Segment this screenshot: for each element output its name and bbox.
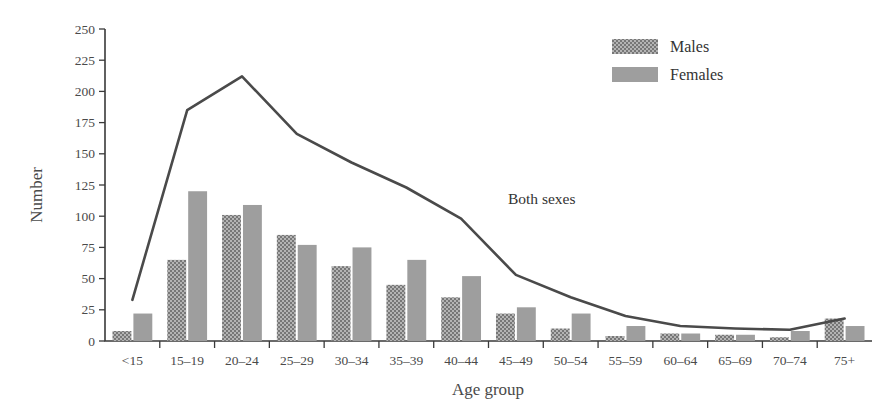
- bar-group: [167, 191, 207, 341]
- bar-males: [496, 314, 515, 341]
- bar-females: [188, 191, 207, 341]
- bar-females: [626, 326, 645, 341]
- legend-item: Males: [612, 38, 709, 55]
- x-tick-label: 30–34: [335, 353, 369, 368]
- bar-group: [770, 331, 810, 341]
- y-tick-label: 250: [75, 22, 96, 37]
- chart-container: 0255075100125150175200225250<1515–1920–2…: [0, 0, 880, 416]
- bar-males: [386, 285, 405, 341]
- bar-males: [551, 329, 570, 341]
- bar-males: [441, 297, 460, 341]
- y-axis-title: Number: [27, 167, 46, 223]
- bar-males: [606, 336, 625, 341]
- bar-females: [846, 326, 865, 341]
- chart-legend: MalesFemales: [612, 38, 723, 83]
- bar-group: [222, 205, 262, 341]
- x-tick-label: 65–69: [718, 353, 752, 368]
- bar-females: [298, 245, 317, 341]
- bar-females: [243, 205, 262, 341]
- legend-label: Males: [670, 38, 709, 55]
- bar-females: [736, 335, 755, 341]
- y-tick-label: 200: [75, 84, 96, 99]
- annotations-layer: Both sexes: [508, 190, 576, 207]
- x-tick-label: 35–39: [389, 353, 423, 368]
- bar-males: [660, 334, 679, 341]
- bar-females: [681, 334, 700, 341]
- bar-males: [167, 260, 186, 341]
- bar-group: [551, 314, 591, 341]
- bar-group: [386, 260, 426, 341]
- axis-lines: [105, 29, 872, 341]
- bar-males: [770, 337, 789, 341]
- y-tick-label: 0: [88, 334, 95, 349]
- bar-group: [112, 314, 152, 341]
- y-tick-label: 150: [75, 146, 96, 161]
- bar-females: [572, 314, 591, 341]
- x-tick-label: 40–44: [444, 353, 478, 368]
- both-sexes-annotation: Both sexes: [508, 190, 576, 207]
- bar-males: [715, 335, 734, 341]
- bar-females: [462, 276, 481, 341]
- bar-males: [222, 215, 241, 341]
- y-tick-label: 75: [82, 240, 96, 255]
- bar-females: [791, 331, 810, 341]
- y-tick-label: 50: [82, 271, 96, 286]
- x-tick-label: 75+: [834, 353, 855, 368]
- bar-group: [606, 326, 646, 341]
- bar-females: [133, 314, 152, 341]
- legend-item: Females: [612, 66, 723, 83]
- x-tick-label: 60–64: [663, 353, 697, 368]
- bar-group: [715, 335, 755, 341]
- bar-group: [441, 276, 481, 341]
- x-tick-label: 55–59: [609, 353, 643, 368]
- x-axis-title: Age group: [452, 380, 524, 399]
- females-swatch: [612, 67, 658, 82]
- y-tick-label: 175: [75, 115, 96, 130]
- y-tick-label: 125: [75, 178, 96, 193]
- y-tick-label: 100: [75, 209, 96, 224]
- legend-label: Females: [670, 66, 723, 83]
- x-tick-label: 15–19: [170, 353, 204, 368]
- bar-males: [112, 331, 131, 341]
- bar-females: [407, 260, 426, 341]
- bar-males: [332, 266, 351, 341]
- x-tick-label: <15: [122, 353, 143, 368]
- x-tick-label: 20–24: [225, 353, 259, 368]
- bar-group: [332, 247, 372, 341]
- x-tick-label: 50–54: [554, 353, 588, 368]
- males-swatch: [612, 39, 658, 54]
- y-tick-label: 225: [75, 53, 96, 68]
- bar-group: [660, 334, 700, 341]
- x-tick-label: 45–49: [499, 353, 533, 368]
- bar-group: [277, 235, 317, 341]
- bar-females: [517, 307, 536, 341]
- bar-females: [353, 247, 372, 341]
- y-tick-label: 25: [82, 302, 96, 317]
- bar-group: [496, 307, 536, 341]
- bars-layer: [112, 191, 864, 341]
- x-tick-label: 70–74: [773, 353, 807, 368]
- bar-males: [277, 235, 296, 341]
- population-age-chart: 0255075100125150175200225250<1515–1920–2…: [0, 0, 880, 416]
- x-tick-label: 25–29: [280, 353, 314, 368]
